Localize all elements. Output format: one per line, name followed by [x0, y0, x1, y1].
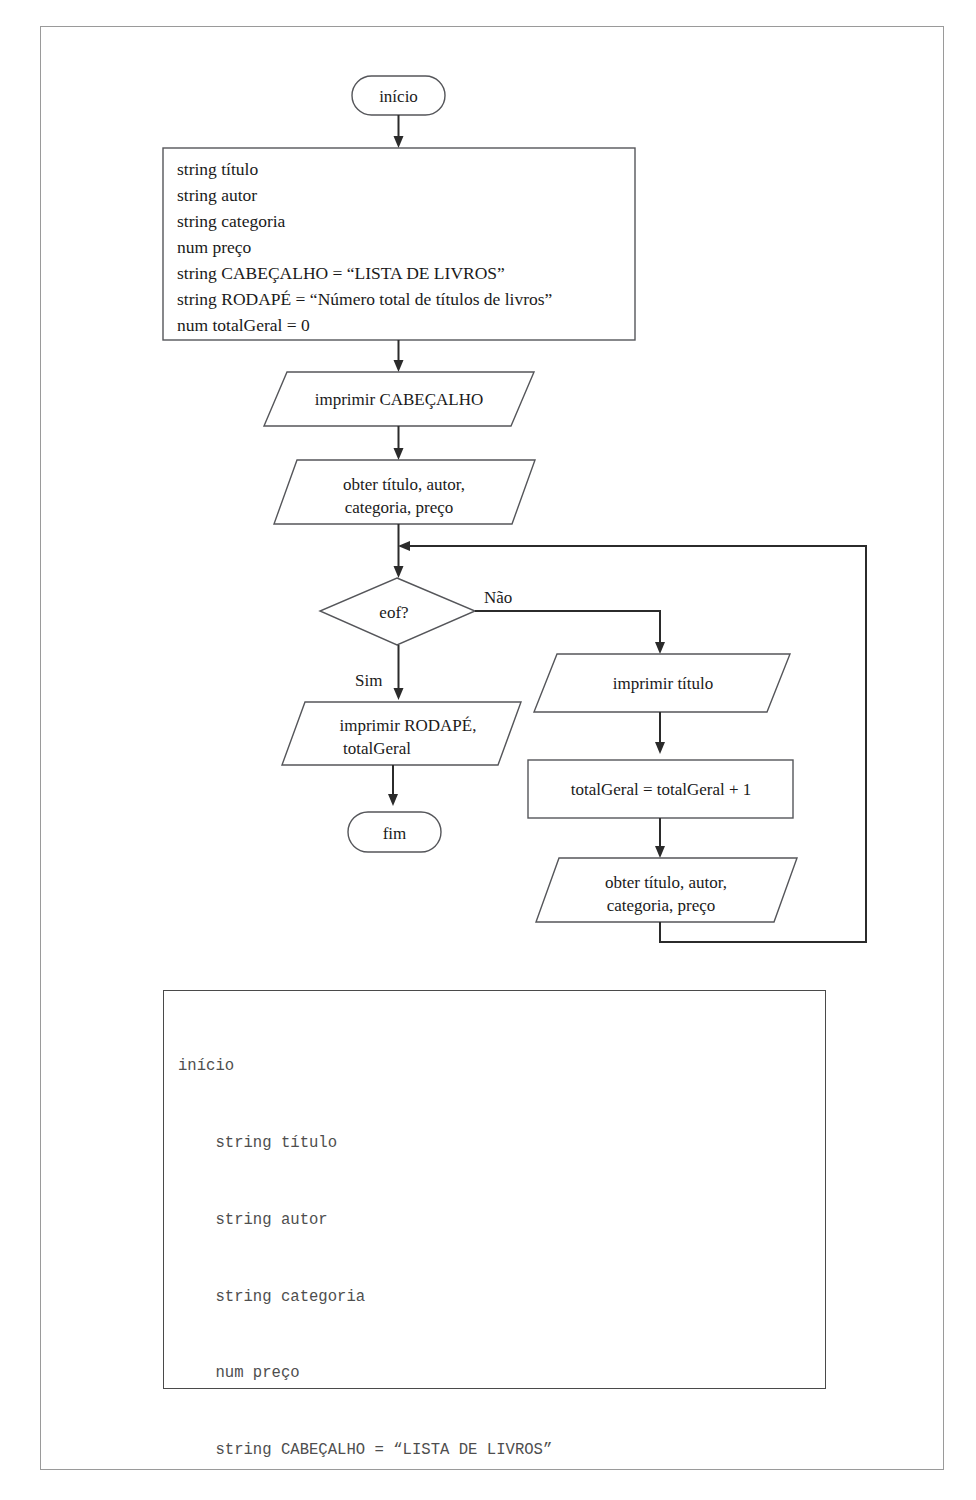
declaration-line: string título: [177, 159, 258, 179]
arrowhead-yes-branch: [394, 688, 404, 700]
io-read-first-line1: obter título, autor,: [343, 475, 465, 494]
pseudocode-line: string autor: [178, 1208, 825, 1234]
decision-eof-label: eof?: [379, 603, 408, 622]
io-print-header-label: imprimir CABEÇALHO: [315, 390, 484, 409]
branch-label-yes: Sim: [355, 671, 382, 690]
pseudocode-block: início string título string autor string…: [163, 990, 826, 1389]
terminal-end-label: fim: [383, 824, 407, 843]
terminal-start-label: início: [379, 87, 418, 106]
arrowhead-read-first-to-decision: [394, 566, 404, 578]
branch-label-no: Não: [484, 588, 512, 607]
declaration-line: string CABEÇALHO = “LISTA DE LIVROS”: [177, 263, 505, 283]
pseudocode-line: string CABEÇALHO = “LISTA DE LIVROS”: [178, 1438, 825, 1464]
arrowhead-no-branch: [655, 642, 665, 654]
arrowhead-print-header-to-read-first: [394, 448, 404, 460]
io-read-next-line1: obter título, autor,: [605, 873, 727, 892]
declaration-line: string RODAPÉ = “Número total de títulos…: [177, 289, 552, 309]
process-increment-label: totalGeral = totalGeral + 1: [571, 780, 752, 799]
io-print-footer-line1: imprimir RODAPÉ,: [340, 716, 477, 735]
pseudocode-line: string título: [178, 1131, 825, 1157]
connector-no-branch: [475, 611, 660, 645]
declaration-line: num preço: [177, 237, 252, 257]
page-canvas: início string título string autor string…: [0, 0, 976, 1500]
pseudocode-lines: início string título string autor string…: [178, 1003, 825, 1500]
arrowhead-print-title-to-increment: [655, 742, 665, 754]
io-read-next-line2: categoria, preço: [607, 896, 716, 915]
pseudocode-line: string categoria: [178, 1285, 825, 1311]
pseudocode-line: num preço: [178, 1361, 825, 1387]
arrowhead-start-to-declarations: [394, 136, 404, 148]
flowchart: início string título string autor string…: [0, 0, 976, 960]
io-print-footer-line2: totalGeral: [343, 739, 411, 758]
arrowhead-increment-to-read-next: [655, 846, 665, 858]
arrowhead-declarations-to-print-header: [394, 360, 404, 372]
arrowhead-print-footer-to-end: [388, 794, 398, 806]
declaration-line: num totalGeral = 0: [177, 315, 310, 335]
pseudocode-line: início: [178, 1054, 825, 1080]
declaration-line: string categoria: [177, 211, 286, 231]
io-print-title-label: imprimir título: [613, 674, 714, 693]
io-read-first-line2: categoria, preço: [345, 498, 454, 517]
arrowhead-loop-back: [398, 541, 410, 551]
declaration-line: string autor: [177, 185, 257, 205]
